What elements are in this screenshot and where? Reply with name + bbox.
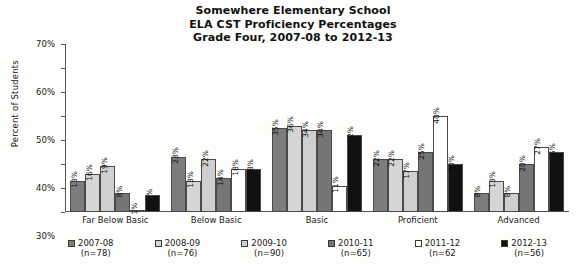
bar-slot: 18% — [246, 44, 261, 212]
bar-2007-08-proficient[interactable]: 22% — [373, 159, 388, 212]
bar-value-label: 18% — [231, 159, 239, 176]
legend-swatch-icon — [501, 240, 508, 247]
bar-2007-08-advanced[interactable]: 8% — [474, 193, 489, 212]
bar-slot: 13% — [186, 44, 201, 212]
bar-2007-08-basic[interactable]: 35% — [272, 128, 287, 212]
legend-item-2010-11[interactable]: 2010-11(n=65) — [320, 238, 407, 258]
y-tick-mark: 0% — [61, 212, 65, 213]
bar-slot: 27% — [534, 44, 549, 212]
bar-value-label: 17% — [403, 162, 411, 179]
bar-2008-09-basic[interactable]: 36% — [287, 126, 302, 212]
bar-2009-10-basic[interactable]: 34% — [302, 130, 317, 212]
bar-2011-12-below-basic[interactable]: 18% — [231, 169, 246, 212]
bar-slot: 25% — [549, 44, 564, 212]
bar-2011-12-basic[interactable]: 11% — [332, 186, 347, 212]
bar-value-label: 18% — [246, 159, 254, 176]
bar-2012-13-far-below-basic[interactable]: 7% — [145, 195, 160, 212]
legend-item-2007-08[interactable]: 2007-08(n=78) — [60, 238, 147, 258]
bar-group: 35%36%34%34%11%32%Basic — [267, 44, 368, 212]
bar-2009-10-far-below-basic[interactable]: 19% — [100, 166, 115, 212]
bar-slot: 25% — [418, 44, 433, 212]
bar-2009-10-advanced[interactable]: 8% — [504, 193, 519, 212]
bar-2007-08-below-basic[interactable]: 23% — [171, 157, 186, 212]
bar-2008-09-far-below-basic[interactable]: 16% — [85, 174, 100, 212]
legend-label: 2009-10(n=90) — [251, 238, 287, 258]
bar-2007-08-far-below-basic[interactable]: 13% — [70, 181, 85, 212]
bar-2010-11-advanced[interactable]: 20% — [519, 164, 534, 212]
bar-slot: 19% — [100, 44, 115, 212]
bar-2009-10-proficient[interactable]: 17% — [403, 171, 418, 212]
bar-group: 8%13%8%20%27%25%Advanced — [468, 44, 569, 212]
bar-value-label: 13% — [489, 171, 497, 188]
bar-slot: 16% — [85, 44, 100, 212]
bar-2011-12-far-below-basic[interactable]: 1% — [130, 210, 145, 212]
bar-slot: 40% — [433, 44, 448, 212]
bar-value-label: 35% — [272, 119, 280, 136]
bar-2010-11-proficient[interactable]: 25% — [418, 152, 433, 212]
bar-value-label: 25% — [418, 143, 426, 160]
y-tick-label: 30% — [36, 232, 55, 241]
legend-swatch-icon — [68, 240, 75, 247]
bar-chart: Somewhere Elementary School ELA CST Prof… — [0, 0, 586, 279]
legend-item-2008-09[interactable]: 2008-09(n=76) — [147, 238, 234, 258]
bar-2009-10-below-basic[interactable]: 22% — [201, 159, 216, 212]
bar-slot: 13% — [70, 44, 85, 212]
legend-sample-size: (n=62 — [425, 248, 461, 258]
y-tick-label: 70% — [36, 40, 55, 49]
legend-swatch-icon — [328, 240, 335, 247]
chart-title-line-3: Grade Four, 2007-08 to 2012-13 — [0, 31, 586, 45]
bar-value-label: 22% — [373, 150, 381, 167]
chart-title-line-1: Somewhere Elementary School — [0, 4, 586, 18]
bar-2012-13-advanced[interactable]: 25% — [549, 152, 564, 212]
bar-value-label: 14% — [216, 169, 224, 186]
bar-value-label: 8% — [504, 186, 512, 198]
x-axis-category-label: Below Basic — [166, 215, 267, 225]
legend-label: 2011-12(n=62 — [425, 238, 461, 258]
bar-2008-09-advanced[interactable]: 13% — [489, 181, 504, 212]
legend-label: 2010-11(n=65) — [338, 238, 374, 258]
bar-slot: 8% — [474, 44, 489, 212]
bar-value-label: 22% — [201, 150, 209, 167]
chart-title: Somewhere Elementary School ELA CST Prof… — [0, 4, 586, 45]
bar-slot: 23% — [171, 44, 186, 212]
chart-title-line-2: ELA CST Proficiency Percentages — [0, 18, 586, 32]
bar-2008-09-below-basic[interactable]: 13% — [186, 181, 201, 212]
y-tick-label: 40% — [36, 184, 55, 193]
bar-slot: 14% — [216, 44, 231, 212]
bar-slot: 8% — [115, 44, 130, 212]
bar-2010-11-far-below-basic[interactable]: 8% — [115, 193, 130, 212]
legend-sample-size: (n=65) — [338, 248, 374, 258]
bar-value-label: 34% — [302, 121, 310, 138]
legend-item-2009-10[interactable]: 2009-10(n=90) — [233, 238, 320, 258]
legend-sample-size: (n=76) — [165, 248, 201, 258]
bar-value-label: 8% — [474, 186, 482, 198]
y-axis-label: Percent of Students — [10, 60, 20, 147]
bar-2010-11-basic[interactable]: 34% — [317, 130, 332, 212]
legend-item-2012-13[interactable]: 2012-13(n=56) — [493, 238, 580, 258]
bar-slot: 20% — [519, 44, 534, 212]
x-axis-category-label: Proficient — [367, 215, 468, 225]
bar-2011-12-advanced[interactable]: 27% — [534, 147, 549, 212]
legend-label: 2007-08(n=78) — [78, 238, 114, 258]
chart-legend: 2007-08(n=78)2008-09(n=76)2009-10(n=90)2… — [60, 238, 580, 258]
bar-2012-13-below-basic[interactable]: 18% — [246, 169, 261, 212]
x-axis-category-label: Far Below Basic — [65, 215, 166, 225]
y-tick-label: 50% — [36, 136, 55, 145]
legend-item-2011-12[interactable]: 2011-12(n=62 — [407, 238, 494, 258]
bar-value-label: 20% — [448, 155, 456, 172]
plot-area: 0%10%20%30%40%50%60%70% 13%16%19%8%1%7%F… — [65, 44, 569, 212]
bar-value-label: 13% — [186, 171, 194, 188]
bar-2010-11-below-basic[interactable]: 14% — [216, 178, 231, 212]
bar-slot: 32% — [347, 44, 362, 212]
bar-value-label: 32% — [347, 126, 355, 143]
bar-value-label: 25% — [549, 143, 557, 160]
bar-value-label: 34% — [317, 121, 325, 138]
bar-2012-13-proficient[interactable]: 20% — [448, 164, 463, 212]
legend-swatch-icon — [241, 240, 248, 247]
bar-slot: 8% — [504, 44, 519, 212]
bar-2012-13-basic[interactable]: 32% — [347, 135, 362, 212]
bar-value-label: 20% — [519, 155, 527, 172]
bar-value-label: 19% — [100, 157, 108, 174]
x-axis-category-label: Basic — [267, 215, 368, 225]
bar-slot: 22% — [201, 44, 216, 212]
